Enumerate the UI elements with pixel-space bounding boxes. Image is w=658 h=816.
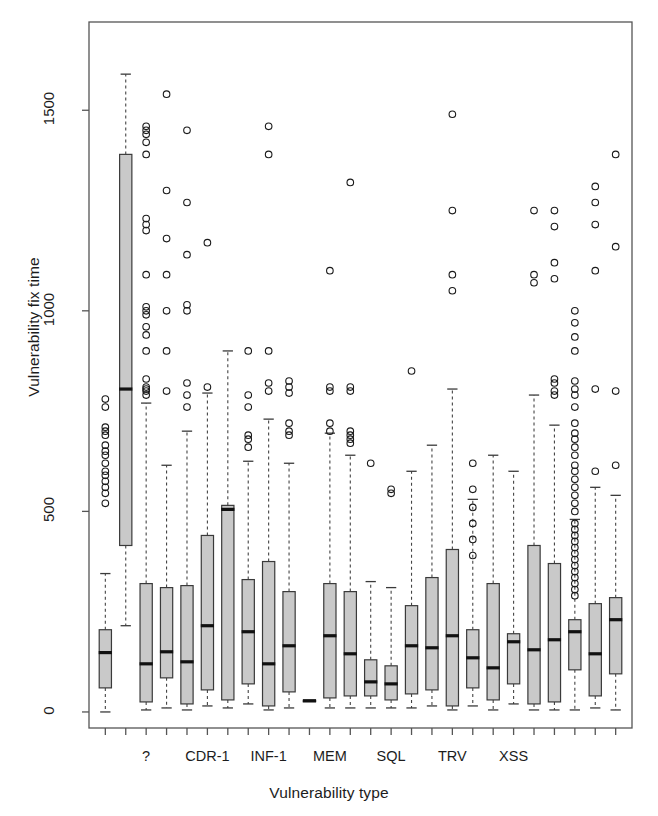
outlier-point xyxy=(612,462,619,469)
boxplot-g16 xyxy=(405,368,418,708)
outlier-point xyxy=(572,500,579,507)
outlier-point xyxy=(184,127,191,134)
outlier-point xyxy=(551,223,558,230)
boxplot-g22 xyxy=(527,207,540,710)
outlier-point xyxy=(245,432,252,439)
outlier-point xyxy=(245,348,252,355)
outlier-point xyxy=(265,388,272,395)
outlier-point xyxy=(572,476,579,483)
outlier-point xyxy=(592,199,599,206)
outlier-point xyxy=(572,334,579,341)
outlier-point xyxy=(143,332,150,339)
outlier-point xyxy=(469,460,476,467)
outlier-point xyxy=(102,500,109,507)
outlier-point xyxy=(551,207,558,214)
outlier-point xyxy=(367,460,374,467)
outlier-point xyxy=(163,187,170,194)
outlier-point xyxy=(265,380,272,387)
outlier-point xyxy=(204,239,211,246)
outlier-point xyxy=(408,368,415,375)
outlier-point xyxy=(388,486,395,493)
outlier-point xyxy=(143,271,150,278)
outlier-point xyxy=(184,380,191,387)
outlier-point xyxy=(592,468,599,475)
boxplot-g10 xyxy=(282,378,295,708)
outlier-point xyxy=(469,486,476,493)
boxplot-g26 xyxy=(609,151,622,710)
boxplot-g1 xyxy=(99,396,112,712)
outlier-point xyxy=(572,348,579,355)
outlier-point xyxy=(163,91,170,98)
outlier-point xyxy=(612,243,619,250)
outlier-point xyxy=(143,376,150,383)
outlier-point xyxy=(449,111,456,118)
outlier-point xyxy=(245,444,252,451)
outlier-point xyxy=(572,378,579,385)
outlier-point xyxy=(143,123,150,130)
outlier-point xyxy=(143,151,150,158)
outlier-point xyxy=(163,308,170,315)
outlier-point xyxy=(265,123,272,130)
outlier-point xyxy=(572,308,579,315)
outlier-point xyxy=(265,348,272,355)
outlier-point xyxy=(163,235,170,242)
outlier-point xyxy=(551,376,558,383)
outlier-point xyxy=(163,271,170,278)
outlier-point xyxy=(143,304,150,311)
outlier-point xyxy=(592,221,599,228)
outlier-point xyxy=(286,428,293,435)
outlier-point xyxy=(449,287,456,294)
outlier-point xyxy=(102,396,109,403)
outlier-point xyxy=(184,404,191,411)
outlier-point xyxy=(572,452,579,459)
outlier-point xyxy=(184,251,191,258)
outlier-point xyxy=(551,275,558,282)
boxplot-g5 xyxy=(180,127,193,710)
outlier-point xyxy=(143,348,150,355)
boxplot-g12 xyxy=(323,267,336,708)
outlier-point xyxy=(347,384,354,391)
outlier-point xyxy=(592,386,599,393)
outlier-point xyxy=(245,404,252,411)
outlier-point xyxy=(184,392,191,399)
outlier-point xyxy=(572,492,579,499)
outlier-point xyxy=(204,384,211,391)
x-axis-title: Vulnerability type xyxy=(0,784,658,802)
outlier-point xyxy=(572,508,579,515)
outlier-point xyxy=(102,460,109,467)
boxplot-g17 xyxy=(425,445,438,706)
outlier-point xyxy=(327,384,334,391)
boxplot-g25 xyxy=(589,183,602,708)
outlier-point xyxy=(449,207,456,214)
outlier-point xyxy=(102,424,109,431)
outlier-point xyxy=(184,199,191,206)
outlier-point xyxy=(551,388,558,395)
boxplot-g3 xyxy=(140,123,153,710)
outlier-point xyxy=(163,388,170,395)
outlier-point xyxy=(327,267,334,274)
outlier-point xyxy=(143,324,150,331)
boxplot-g11 xyxy=(303,701,316,702)
outlier-point xyxy=(531,279,538,286)
x-tick-label-6: XSS xyxy=(469,748,559,764)
outlier-point xyxy=(265,151,272,158)
y-tick-label: 500 xyxy=(40,470,57,550)
outlier-point xyxy=(572,484,579,491)
y-tick-label: 1000 xyxy=(40,269,57,349)
outlier-point xyxy=(592,267,599,274)
outlier-point xyxy=(143,139,150,146)
outlier-point xyxy=(286,420,293,427)
boxplot-g4 xyxy=(160,91,173,708)
boxplot-g24 xyxy=(568,308,581,710)
outlier-point xyxy=(102,468,109,475)
boxplot-g9 xyxy=(262,123,275,710)
boxplot-g23 xyxy=(548,207,561,710)
outlier-point xyxy=(551,259,558,266)
boxplot-g21 xyxy=(507,471,520,704)
boxplot-g8 xyxy=(242,348,255,704)
outlier-point xyxy=(592,183,599,190)
outlier-point xyxy=(347,428,354,435)
plot-area xyxy=(0,0,658,816)
outlier-point xyxy=(327,420,334,427)
outlier-point xyxy=(612,151,619,158)
